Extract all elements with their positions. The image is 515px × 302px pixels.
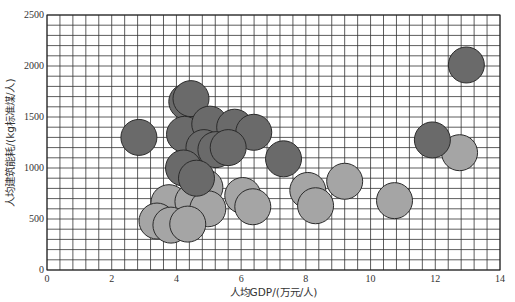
x-tick-label: 4: [174, 273, 179, 284]
y-tick-label: 2500: [24, 9, 44, 20]
y-tick-label: 1500: [24, 111, 44, 122]
x-tick-label: 8: [303, 273, 308, 284]
bubble-light: [235, 189, 271, 225]
y-axis-label: 人均建筑能耗/(kg标准煤/人): [4, 78, 16, 206]
bubble-light: [327, 163, 363, 199]
x-axis-ticks: 02468101214: [45, 273, 506, 284]
y-tick-label: 2000: [24, 60, 44, 71]
x-tick-label: 0: [45, 273, 50, 284]
bubble-dark: [178, 160, 214, 196]
y-tick-label: 0: [39, 264, 44, 275]
bubble-light: [377, 183, 413, 219]
x-tick-label: 2: [109, 273, 114, 284]
bubble-dark: [121, 119, 157, 155]
bubble-light: [170, 206, 206, 242]
bubble-light: [298, 188, 334, 224]
y-tick-label: 500: [29, 213, 44, 224]
x-tick-label: 12: [430, 273, 440, 284]
x-tick-label: 14: [495, 273, 505, 284]
y-axis-ticks: 05001000150020002500: [24, 9, 44, 275]
y-tick-label: 1000: [24, 162, 44, 173]
x-axis-label: 人均GDP/(万元/人): [230, 286, 318, 298]
x-tick-label: 6: [239, 273, 244, 284]
bubble-chart: 02468101214 05001000150020002500 人均GDP/(…: [0, 0, 515, 302]
bubble-dark: [448, 47, 484, 83]
bubble-dark: [210, 130, 246, 166]
x-tick-label: 10: [366, 273, 376, 284]
bubble-dark: [414, 122, 450, 158]
bubble-dark: [266, 141, 302, 177]
